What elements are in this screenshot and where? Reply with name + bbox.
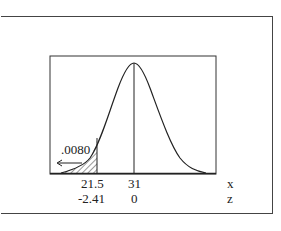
z-cutoff-label: -2.41	[78, 192, 105, 205]
x-cutoff-label: 21.5	[81, 177, 104, 190]
z-axis-name: z	[227, 192, 233, 205]
z-mean-label: 0	[131, 192, 138, 205]
x-mean-label: 31	[128, 177, 141, 190]
x-axis-name: x	[227, 177, 234, 190]
area-label: .0080	[61, 143, 90, 156]
normal-curve-plot	[0, 0, 281, 231]
